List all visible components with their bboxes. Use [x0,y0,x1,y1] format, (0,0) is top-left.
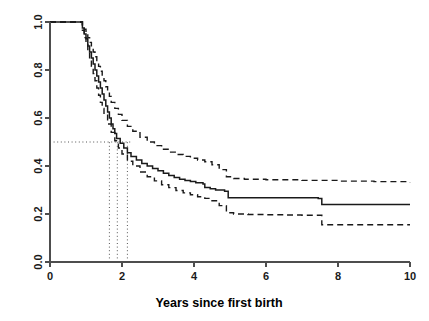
axes-group [45,22,410,267]
x-tick-label: 6 [263,270,269,282]
y-tick-label: 0.6 [32,110,44,125]
x-axis-title: Years since first birth [155,296,282,310]
confidence-bands-group [50,22,410,225]
x-tick-label: 10 [404,270,416,282]
y-tick-label: 0.4 [32,157,44,173]
y-tick-label: 0.0 [32,254,44,269]
reference-lines-group [50,142,133,262]
x-tick-label: 4 [191,270,198,282]
y-tick-label: 0.2 [32,206,44,221]
upper-confidence-band [50,22,410,182]
lower-confidence-band [50,22,410,225]
y-tick-label: 0.8 [32,62,44,77]
y-tick-label: 1.0 [32,14,44,29]
x-tick-label: 8 [335,270,341,282]
plot-canvas: 02468100.00.20.40.60.81.0 Years since fi… [0,0,429,321]
survival-plot-figure: 02468100.00.20.40.60.81.0 Years since fi… [0,0,429,321]
x-tick-label: 0 [47,270,53,282]
x-tick-label: 2 [119,270,125,282]
